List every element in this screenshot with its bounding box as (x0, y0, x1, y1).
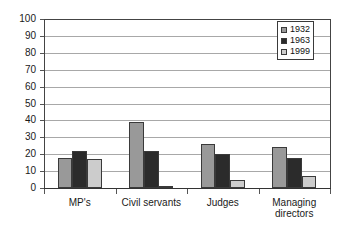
x-axis-tick (259, 189, 260, 194)
x-axis-category-label: MP's (44, 197, 116, 208)
legend-label: 1999 (290, 47, 310, 56)
y-axis-tick-label: 80 (2, 48, 36, 58)
gridline (45, 104, 330, 105)
y-axis-tick-label: 10 (2, 166, 36, 176)
legend-swatch-icon (281, 49, 287, 55)
gridline (45, 120, 330, 121)
y-axis-tick-label: 70 (2, 65, 36, 75)
y-axis-tick-label: 40 (2, 115, 36, 125)
bar (129, 122, 144, 188)
bar (230, 180, 245, 188)
y-axis-tick-label: 50 (2, 99, 36, 109)
y-axis-tick-label: 0 (2, 183, 36, 193)
legend-label: 1963 (290, 36, 310, 45)
chart-legend: 193219631999 (277, 21, 314, 60)
gridline (45, 87, 330, 88)
plot-border-right (330, 19, 331, 189)
y-axis-tick-label: 30 (2, 132, 36, 142)
y-axis-tick-label: 60 (2, 82, 36, 92)
bar (159, 186, 174, 188)
x-axis-category-label: Judges (187, 197, 259, 208)
bar (72, 151, 87, 188)
legend-label: 1932 (290, 25, 310, 34)
bar (287, 158, 302, 188)
x-axis-category-label: Managing directors (259, 197, 331, 219)
bar (302, 176, 317, 188)
legend-swatch-icon (281, 27, 287, 33)
bar-chart: 0102030405060708090100 MP'sCivil servant… (0, 0, 346, 229)
legend-item[interactable]: 1932 (281, 24, 310, 35)
legend-swatch-icon (281, 38, 287, 44)
x-axis-tick (187, 189, 188, 194)
gridline (45, 137, 330, 138)
bar (87, 159, 102, 188)
y-axis-tick-label: 20 (2, 149, 36, 159)
y-axis-tick-label: 100 (2, 14, 36, 24)
x-axis-tick (44, 189, 45, 194)
gridline (45, 70, 330, 71)
bar (201, 144, 216, 188)
legend-item[interactable]: 1963 (281, 35, 310, 46)
x-axis-tick (116, 189, 117, 194)
legend-item[interactable]: 1999 (281, 46, 310, 57)
bar (215, 154, 230, 188)
y-axis-tick-label: 90 (2, 31, 36, 41)
y-axis-line (44, 19, 45, 189)
bar (272, 147, 287, 188)
x-axis-tick (330, 189, 331, 194)
bar (144, 151, 159, 188)
x-axis-category-label: Civil servants (116, 197, 188, 208)
bar (58, 158, 73, 188)
gridline (45, 154, 330, 155)
plot-border-top (44, 19, 331, 20)
